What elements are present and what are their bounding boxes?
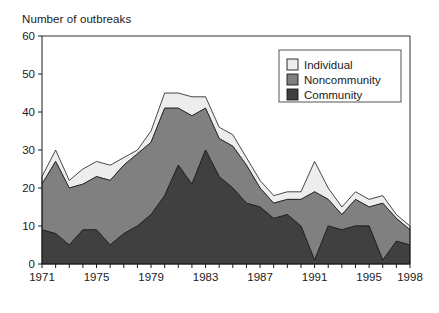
chart-legend: IndividualNoncommunityCommunity bbox=[279, 50, 401, 102]
legend-swatch-community bbox=[287, 89, 298, 100]
y-tick-label: 60 bbox=[22, 30, 35, 42]
x-tick-label: 1998 bbox=[397, 271, 423, 283]
chart-canvas: 0102030405060197119751979198319871991199… bbox=[0, 0, 439, 313]
x-tick-label: 1995 bbox=[356, 271, 382, 283]
y-tick-label: 0 bbox=[29, 258, 35, 270]
x-tick-label: 1991 bbox=[302, 271, 328, 283]
legend-swatch-individual bbox=[287, 59, 298, 70]
x-tick-label: 1983 bbox=[193, 271, 219, 283]
x-tick-label: 1987 bbox=[247, 271, 273, 283]
y-tick-label: 20 bbox=[22, 182, 35, 194]
legend-label-community: Community bbox=[304, 89, 362, 101]
x-tick-label: 1975 bbox=[84, 271, 110, 283]
y-tick-label: 10 bbox=[22, 220, 35, 232]
x-tick-label: 1979 bbox=[138, 271, 164, 283]
chart-axis-title: Number of outbreaks bbox=[22, 13, 131, 25]
legend-label-individual: Individual bbox=[304, 59, 353, 71]
x-tick-label: 1971 bbox=[29, 271, 55, 283]
y-tick-label: 30 bbox=[22, 144, 35, 156]
y-tick-label: 50 bbox=[22, 68, 35, 80]
y-tick-label: 40 bbox=[22, 106, 35, 118]
legend-label-noncommunity: Noncommunity bbox=[304, 74, 381, 86]
outbreaks-stacked-area-chart: Number of outbreaks 01020304050601971197… bbox=[0, 0, 439, 313]
legend-swatch-noncommunity bbox=[287, 74, 298, 85]
